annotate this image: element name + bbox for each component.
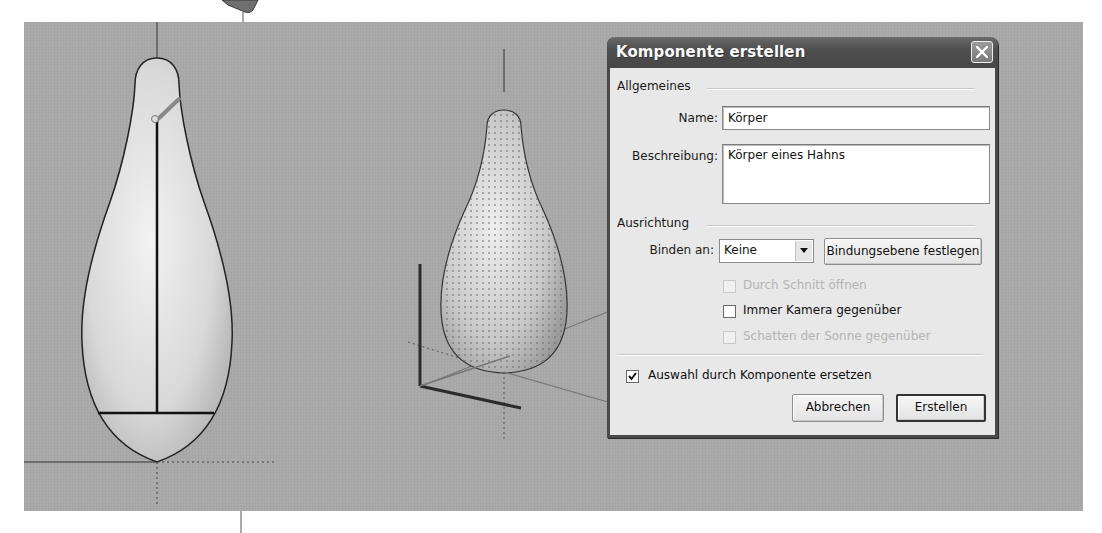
description-textarea[interactable]: Körper eines Hahns (722, 144, 990, 204)
cut-opening-checkbox[interactable] (723, 280, 736, 293)
close-icon (975, 45, 989, 59)
dialog-titlebar[interactable]: Komponente erstellen (607, 37, 998, 68)
bind-to-select[interactable]: Keine (719, 239, 814, 263)
name-label: Name: (618, 111, 718, 125)
replace-selection-label: Auswahl durch Komponente ersetzen (648, 368, 872, 382)
cancel-button[interactable]: Abbrechen (792, 394, 884, 422)
always-face-camera-label: Immer Kamera gegenüber (743, 303, 901, 317)
set-binding-plane-button[interactable]: Bindungsebene festlegen (824, 238, 982, 265)
group-general-divider (707, 88, 975, 90)
bind-to-label: Binden an: (618, 243, 714, 257)
bind-to-value: Keine (724, 243, 757, 257)
always-face-camera-checkbox[interactable] (723, 305, 736, 318)
dialog-body: Allgemeines Name: Beschreibung: Körper e… (610, 68, 995, 435)
checkmark-icon (628, 372, 637, 381)
section-separator (617, 354, 983, 356)
dropdown-arrow[interactable] (795, 241, 812, 261)
shadows-face-sun-label: Schatten der Sonne gegenüber (743, 329, 931, 343)
create-component-dialog: Komponente erstellen Allgemeines Name: B… (607, 37, 998, 438)
shadows-face-sun-checkbox[interactable] (723, 331, 736, 344)
description-label: Beschreibung: (614, 149, 718, 163)
group-alignment-divider (707, 225, 975, 227)
chevron-down-icon (800, 248, 808, 253)
dialog-title: Komponente erstellen (616, 43, 805, 61)
close-button[interactable] (971, 41, 993, 63)
right-body-shape (408, 49, 625, 442)
replace-selection-checkbox[interactable] (626, 370, 639, 383)
group-general-heading: Allgemeines (617, 79, 691, 93)
name-input[interactable] (722, 106, 990, 130)
create-button[interactable]: Erstellen (896, 394, 986, 422)
group-alignment-heading: Ausrichtung (617, 216, 689, 230)
left-body-shape (24, 22, 274, 507)
cut-opening-label: Durch Schnitt öffnen (743, 278, 867, 292)
